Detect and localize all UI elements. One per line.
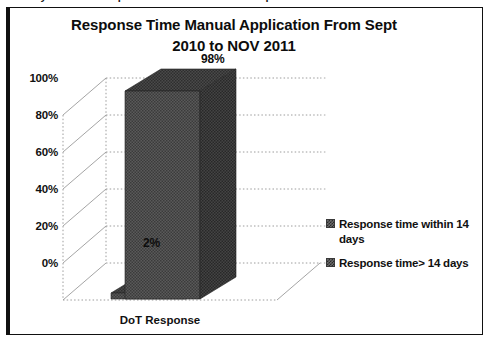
legend-label-0: Response time within 14 days — [339, 217, 476, 247]
chart-title: Response Time Manual Application From Se… — [44, 14, 424, 56]
y-tick-0: 0% — [4, 257, 58, 269]
plot-area: 100% 80% 60% 40% 20% 0% 98% 2% DoT Respo… — [10, 56, 487, 336]
chart-title-line-2: 2010 to NOV 2011 — [44, 35, 424, 56]
legend-swatch-icon-0 — [326, 219, 335, 228]
chart-legend: Response time within 14 days Response ti… — [326, 217, 476, 280]
data-label-98: 98% — [201, 52, 224, 66]
bar-series-2 — [125, 69, 236, 299]
bar-2-side-face — [200, 69, 236, 299]
y-tick-20: 20% — [4, 220, 58, 232]
data-label-2: 2% — [143, 236, 160, 250]
clipped-body-text: be a system that response time continues… — [8, 0, 300, 2]
y-tick-60: 60% — [4, 146, 58, 158]
plot-graphics — [10, 56, 487, 336]
chart-title-line-1: Response Time Manual Application From Se… — [71, 16, 397, 33]
legend-swatch-icon-1 — [326, 258, 335, 267]
legend-item-1[interactable]: Response time> 14 days — [326, 256, 476, 271]
chart-container: Response Time Manual Application From Se… — [6, 7, 483, 335]
bar-2-front-face — [125, 91, 200, 299]
y-tick-40: 40% — [4, 183, 58, 195]
y-tick-100: 100% — [4, 72, 58, 84]
depth-lines — [63, 78, 106, 300]
legend-label-1: Response time> 14 days — [339, 256, 469, 271]
legend-item-0[interactable]: Response time within 14 days — [326, 217, 476, 247]
scanned-text-strip: be a system that response time continues… — [0, 0, 487, 7]
y-tick-80: 80% — [4, 109, 58, 121]
x-axis-category-label: DoT Response — [65, 314, 255, 326]
